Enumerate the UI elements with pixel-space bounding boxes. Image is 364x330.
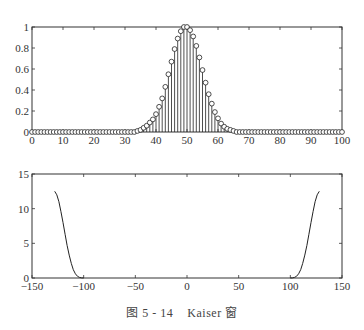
x-tick-label: 70 [244, 134, 256, 146]
y-tick-label: 10 [18, 203, 30, 215]
y-tick-label: 15 [18, 168, 30, 180]
x-tick-label: 150 [334, 280, 351, 292]
y-tick-label: 5 [24, 237, 30, 249]
curve-right [290, 191, 319, 278]
top-stem-plot: 010203040506070809010000.20.40.60.81 [15, 21, 351, 146]
x-tick-label: 50 [182, 134, 194, 146]
bottom-line-plot: −150−100−50050100150051015 [18, 168, 351, 292]
x-tick-label: 10 [58, 134, 70, 146]
stem-marker [169, 59, 174, 64]
x-tick-label: −50 [127, 280, 145, 292]
stem-marker [216, 116, 221, 121]
x-tick-label: 80 [275, 134, 287, 146]
stem-marker [154, 112, 159, 117]
x-tick-label: 30 [120, 134, 132, 146]
y-tick-label: 0.2 [15, 105, 29, 117]
stem-marker [340, 130, 345, 135]
stem-marker [213, 110, 218, 115]
x-tick-label: 100 [334, 134, 351, 146]
stem-marker [157, 104, 162, 109]
y-tick-label: 1 [24, 21, 30, 33]
x-tick-label: 0 [184, 280, 190, 292]
stem-marker [206, 92, 211, 97]
figure: 010203040506070809010000.20.40.60.81 −15… [0, 0, 364, 330]
stem-marker [203, 80, 208, 85]
x-tick-label: 0 [29, 134, 35, 146]
y-tick-label: 0 [24, 272, 30, 284]
x-tick-label: 60 [213, 134, 225, 146]
stem-marker [209, 101, 214, 106]
stem-marker [191, 34, 196, 39]
bottom-axes-frame [32, 174, 342, 278]
stem-marker [188, 28, 193, 33]
figure-label: 图 5 - 14 [126, 306, 173, 320]
stem-marker [178, 29, 183, 34]
y-tick-label: 0.6 [15, 63, 29, 75]
stem-marker [194, 44, 199, 49]
figure-title: Kaiser 窗 [187, 306, 237, 320]
stem-marker [160, 96, 165, 101]
y-tick-label: 0.4 [15, 84, 29, 96]
x-tick-label: 100 [282, 280, 299, 292]
y-tick-label: 0.8 [15, 42, 29, 54]
stem-marker [200, 68, 205, 73]
stem-marker [197, 55, 202, 60]
stem-marker [151, 117, 156, 122]
x-tick-label: 90 [306, 134, 318, 146]
stem-marker [163, 84, 168, 89]
x-tick-label: 40 [151, 134, 163, 146]
x-tick-label: −100 [72, 280, 95, 292]
x-tick-label: 20 [89, 134, 101, 146]
curve-left [55, 191, 84, 278]
y-tick-label: 0 [24, 126, 30, 138]
stem-marker [175, 36, 180, 41]
x-tick-label: 50 [233, 280, 245, 292]
stem-marker [166, 72, 171, 77]
figure-caption: 图 5 - 14 Kaiser 窗 [0, 303, 364, 321]
stem-marker [172, 47, 177, 52]
